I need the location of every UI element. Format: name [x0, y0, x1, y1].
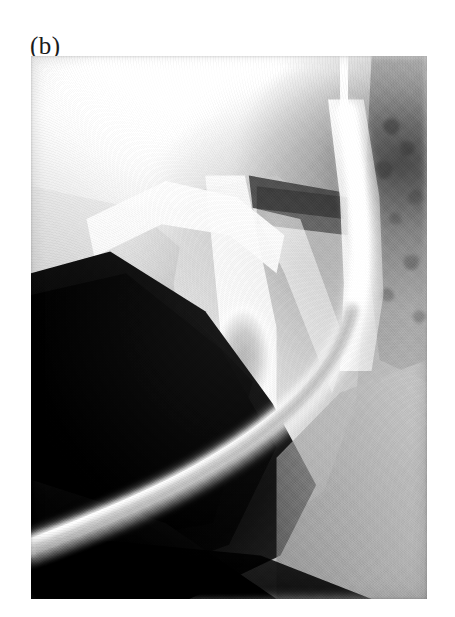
radiograph-image [31, 56, 427, 599]
figure-panel: (b) [0, 0, 455, 617]
plate-edge-shadow [31, 56, 427, 599]
